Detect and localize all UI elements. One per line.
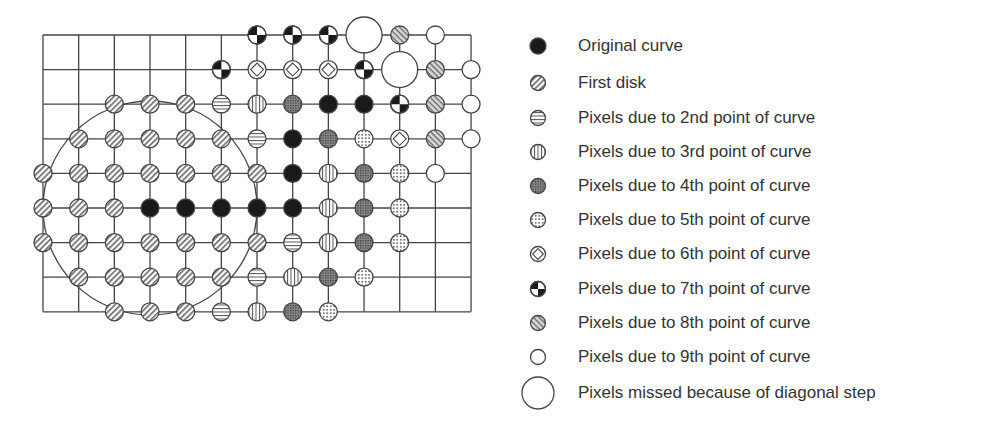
pixel-marker	[70, 199, 88, 217]
legend-label: Pixels due to 2nd point of curve	[578, 108, 815, 128]
pixel-marker	[105, 164, 123, 182]
pixel-marker	[248, 95, 266, 113]
pixel-marker	[248, 199, 266, 217]
pixel-marker	[34, 199, 52, 217]
pixel-marker	[105, 268, 123, 286]
pixel-marker	[177, 199, 195, 217]
legend-label: Pixels due to 7th point of curve	[578, 279, 810, 299]
pixel-marker	[105, 234, 123, 252]
pixel-marker	[391, 164, 409, 182]
legend-item: Pixels due to 6th point of curve	[520, 239, 980, 269]
pixel-marker	[284, 199, 302, 217]
legend-item: Pixels due to 8th point of curve	[520, 308, 980, 338]
legend-label: Pixels due to 4th point of curve	[578, 176, 810, 196]
legend-label: Pixels due to 3rd point of curve	[578, 142, 811, 162]
backslash-hatched-circle-icon	[520, 63, 560, 103]
pixel-marker	[141, 164, 159, 182]
pixel-marker	[70, 268, 88, 286]
pixel-marker	[105, 130, 123, 148]
pixel-marker	[212, 234, 230, 252]
pixel-marker	[319, 234, 337, 252]
pixel-marker	[284, 95, 302, 113]
pixel-marker	[462, 61, 480, 79]
legend-item: Original curve	[520, 31, 980, 61]
pixel-marker	[462, 95, 480, 113]
pixel-marker	[248, 268, 266, 286]
legend-item: Pixels due to 4th point of curve	[520, 171, 980, 201]
pixel-marker	[426, 26, 444, 44]
large-empty-circle-icon	[520, 373, 560, 413]
pixel-marker	[212, 95, 230, 113]
pixel-marker	[248, 234, 266, 252]
pixel-marker	[248, 26, 266, 44]
pixel-marker	[212, 303, 230, 321]
pixel-marker	[284, 303, 302, 321]
pixel-marker	[391, 95, 409, 113]
solid-black-circle-icon	[520, 26, 560, 66]
pixel-marker	[177, 303, 195, 321]
pixel-marker	[426, 164, 444, 182]
pixel-marker	[426, 61, 444, 79]
pixel-marker	[319, 199, 337, 217]
pixel-marker	[70, 234, 88, 252]
legend-label: First disk	[578, 73, 646, 93]
pixel-marker	[426, 95, 444, 113]
legend-item: Pixels due to 7th point of curve	[520, 274, 980, 304]
pixel-marker	[212, 199, 230, 217]
pixel-marker	[177, 164, 195, 182]
legend-item: First disk	[520, 68, 980, 98]
pixel-marker	[284, 234, 302, 252]
pixel-marker	[248, 303, 266, 321]
legend-label: Pixels due to 6th point of curve	[578, 244, 810, 264]
legend-label: Pixels missed because of diagonal step	[578, 383, 876, 403]
pixel-marker	[284, 61, 302, 79]
pixel-marker	[319, 303, 337, 321]
pixel-marker	[34, 234, 52, 252]
pixel-marker	[212, 130, 230, 148]
pixel-marker	[462, 130, 480, 148]
pixel-marker	[248, 61, 266, 79]
legend-label: Pixels due to 5th point of curve	[578, 210, 810, 230]
pixel-marker	[284, 268, 302, 286]
pixel-marker	[284, 26, 302, 44]
pixel-marker	[355, 61, 373, 79]
pixel-marker	[141, 303, 159, 321]
pixel-marker	[212, 268, 230, 286]
legend-item: Pixels due to 5th point of curve	[520, 205, 980, 235]
pixel-marker	[284, 130, 302, 148]
legend-label: Pixels due to 9th point of curve	[578, 347, 810, 367]
pixel-marker	[355, 130, 373, 148]
pixel-marker	[355, 95, 373, 113]
pixel-marker	[105, 199, 123, 217]
pixel-marker	[212, 61, 230, 79]
pixel-marker	[248, 130, 266, 148]
pixel-marker	[391, 26, 409, 44]
pixel-marker	[355, 234, 373, 252]
legend: Original curve First disk	[520, 0, 980, 434]
pixel-marker	[355, 199, 373, 217]
legend-item: Pixels due to 2nd point of curve	[520, 103, 980, 133]
pixel-marker	[70, 130, 88, 148]
legend-label: Original curve	[578, 36, 683, 56]
diamond-circle-icon	[520, 234, 560, 274]
pixel-marker	[355, 268, 373, 286]
pixel-marker	[141, 95, 159, 113]
pixel-marker	[391, 234, 409, 252]
pixel-marker	[355, 164, 373, 182]
pixel-marker	[382, 52, 418, 88]
legend-item: Pixels missed because of diagonal step	[520, 378, 980, 408]
pixel-marker	[141, 268, 159, 286]
pixel-marker	[177, 130, 195, 148]
pixel-marker	[319, 61, 337, 79]
pixel-marker	[212, 164, 230, 182]
legend-item: Pixels due to 3rd point of curve	[520, 137, 980, 167]
pixel-marker	[319, 26, 337, 44]
pixel-marker	[319, 268, 337, 286]
pixel-grid-diagram	[0, 0, 510, 434]
pixel-marker	[105, 95, 123, 113]
pixel-marker	[177, 268, 195, 286]
pixel-marker	[391, 199, 409, 217]
pixel-marker	[141, 234, 159, 252]
pixel-marker	[391, 130, 409, 148]
legend-label: Pixels due to 8th point of curve	[578, 313, 810, 333]
